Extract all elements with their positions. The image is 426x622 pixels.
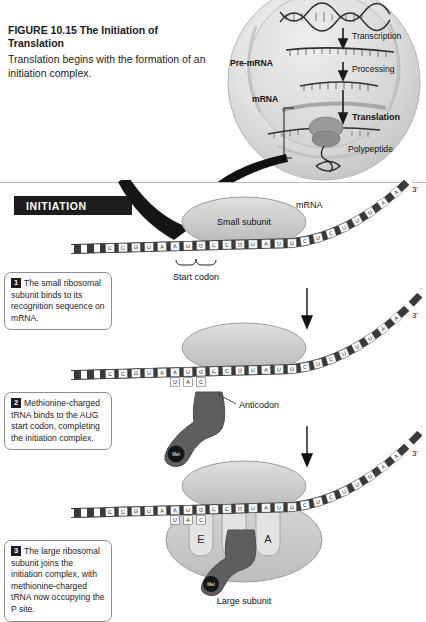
svg-text:G: G bbox=[238, 367, 242, 373]
mrna-base: U bbox=[144, 369, 153, 378]
svg-text:U: U bbox=[251, 505, 255, 511]
mrna-base: G bbox=[235, 240, 244, 249]
anticodon-base: A bbox=[184, 378, 193, 386]
mrna-base: C bbox=[105, 508, 114, 517]
small-subunit-label: Small subunit bbox=[217, 217, 272, 227]
anticodon-base: C bbox=[197, 378, 206, 386]
svg-text:A: A bbox=[186, 517, 190, 523]
mrna-base: A bbox=[157, 506, 166, 515]
three-prime-label-2: 3' bbox=[412, 311, 418, 320]
mrna-base: U bbox=[313, 233, 323, 243]
mrna-base: U bbox=[274, 365, 283, 374]
site-label-E: E bbox=[197, 533, 204, 545]
anticodon-base: C bbox=[197, 516, 206, 524]
svg-text:A: A bbox=[160, 370, 164, 376]
anticodon-base: U bbox=[171, 516, 180, 524]
mrna-base: G bbox=[287, 365, 296, 374]
mrna-base: C bbox=[300, 500, 310, 510]
mrna-base: G bbox=[287, 503, 296, 512]
label-mrna-cell: mRNA bbox=[252, 94, 278, 104]
mrna-base: U bbox=[274, 503, 283, 512]
mrna-nucleotide-tick bbox=[94, 508, 100, 516]
svg-text:C: C bbox=[121, 245, 125, 251]
translation-initiation-panels: Small subunit 5' mRNA 3' CCGUAAUGCCGUAUG… bbox=[0, 180, 426, 614]
mrna-base: G bbox=[235, 366, 244, 375]
svg-text:U: U bbox=[251, 241, 255, 247]
svg-text:C: C bbox=[225, 242, 229, 248]
svg-text:C: C bbox=[199, 379, 203, 385]
svg-text:G: G bbox=[199, 242, 203, 248]
mrna-nucleotide-tick bbox=[81, 509, 87, 517]
svg-text:U: U bbox=[186, 507, 190, 513]
svg-text:U: U bbox=[173, 517, 177, 523]
figure-title: FIGURE 10.15 The Initiation of Translati… bbox=[8, 24, 208, 51]
svg-text:G: G bbox=[199, 507, 203, 513]
mrna-nucleotide-tick bbox=[81, 371, 87, 379]
anticodon-label: Anticodon bbox=[239, 400, 279, 410]
svg-text:C: C bbox=[212, 242, 216, 248]
svg-text:G: G bbox=[238, 505, 242, 511]
three-prime-label-3: 3' bbox=[412, 449, 418, 458]
svg-text:G: G bbox=[199, 369, 203, 375]
panel-2-to-3-arrow bbox=[302, 426, 312, 466]
svg-text:U: U bbox=[147, 508, 151, 514]
svg-text:G: G bbox=[290, 504, 294, 510]
zoom-callout-arrow bbox=[212, 154, 288, 182]
mrna-base: U bbox=[183, 506, 192, 515]
svg-text:G: G bbox=[134, 244, 138, 250]
mrna-base: A bbox=[261, 365, 270, 374]
svg-text:G: G bbox=[238, 241, 242, 247]
mrna-base: U bbox=[144, 507, 153, 516]
large-subunit-label: Large subunit bbox=[217, 596, 272, 606]
label-translation: Translation bbox=[352, 112, 400, 122]
mrna-base: C bbox=[300, 236, 310, 246]
cell-to-panel-arrow bbox=[118, 180, 190, 240]
svg-text:U: U bbox=[147, 244, 151, 250]
mrna-nucleotide-tick bbox=[81, 245, 87, 253]
mrna-base: C bbox=[209, 505, 218, 514]
svg-text:C: C bbox=[108, 245, 112, 251]
svg-text:A: A bbox=[173, 369, 177, 375]
mrna-base: A bbox=[261, 239, 270, 248]
mrna-nucleotide-tick bbox=[68, 371, 74, 379]
met-label-2: Met bbox=[172, 452, 180, 457]
mrna-base: U bbox=[144, 243, 153, 252]
mrna-base: C bbox=[222, 240, 231, 249]
mrna-base: G bbox=[196, 241, 205, 250]
mrna-base: C bbox=[209, 241, 218, 250]
mrna-base: G bbox=[196, 505, 205, 514]
svg-text:A: A bbox=[264, 505, 268, 511]
svg-text:C: C bbox=[121, 509, 125, 515]
mrna-label: mRNA bbox=[296, 200, 323, 210]
label-pre-mrna: Pre-mRNA bbox=[230, 58, 273, 68]
mrna-base: A bbox=[170, 242, 179, 251]
mrna-nucleotide-tick bbox=[94, 370, 100, 378]
svg-text:G: G bbox=[290, 240, 294, 246]
svg-text:U: U bbox=[277, 366, 281, 372]
svg-text:C: C bbox=[225, 506, 229, 512]
svg-text:U: U bbox=[186, 369, 190, 375]
mrna-base: G bbox=[131, 243, 140, 252]
mrna-base: G bbox=[287, 239, 296, 248]
mrna-base: G bbox=[131, 507, 140, 516]
svg-text:C: C bbox=[108, 371, 112, 377]
panel-2-trna-binding: 5' 3' CCGUAAUGCCGUAUGCUCUUUAA Met UAC An… bbox=[68, 288, 426, 466]
mrna-base: U bbox=[248, 240, 257, 249]
cell-overview-diagram: DNA Transcription Pre-mRNA P bbox=[212, 0, 426, 182]
mrna-base: C bbox=[105, 244, 114, 253]
svg-text:C: C bbox=[212, 506, 216, 512]
mrna-base: A bbox=[261, 503, 270, 512]
svg-text:A: A bbox=[186, 379, 190, 385]
mrna-base: G bbox=[196, 367, 205, 376]
svg-text:G: G bbox=[134, 508, 138, 514]
mrna-base: C bbox=[105, 370, 114, 379]
mrna-nucleotide-tick bbox=[94, 244, 100, 252]
svg-text:A: A bbox=[160, 244, 164, 250]
mrna-base: U bbox=[248, 504, 257, 513]
met-label-3: Met bbox=[207, 582, 215, 587]
figure-caption: FIGURE 10.15 The Initiation of Translati… bbox=[8, 24, 208, 81]
mrna-base: U bbox=[313, 359, 323, 369]
anticodon-bases-2: UAC bbox=[171, 378, 206, 386]
mrna-base: A bbox=[157, 242, 166, 251]
svg-text:U: U bbox=[173, 379, 177, 385]
